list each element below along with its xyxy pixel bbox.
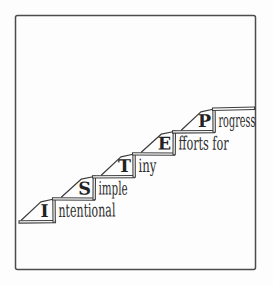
step-intentional: I ntentional <box>19 198 116 223</box>
step-word: fforts for <box>178 133 228 154</box>
step-letter: E <box>158 133 171 153</box>
step-word: ntentional <box>58 199 115 220</box>
step-wedge <box>21 199 54 220</box>
step-riser <box>173 131 175 155</box>
step-riser <box>93 176 95 200</box>
landing-line <box>212 107 254 111</box>
step-word: rogress <box>218 110 255 131</box>
staircase-diagram: I ntentional S imple T iny E fforts for <box>0 0 273 285</box>
step-riser <box>213 108 215 132</box>
step-letter: P <box>198 111 211 131</box>
ground-line <box>19 220 56 223</box>
step-progress: P rogress <box>172 108 255 133</box>
step-word: iny <box>138 155 156 176</box>
step-letter: I <box>40 201 48 221</box>
step-simple: S imple <box>52 176 127 201</box>
step-letter: S <box>78 178 91 198</box>
step-word: imple <box>98 178 127 199</box>
landing <box>212 107 254 111</box>
step-letter: T <box>118 156 131 176</box>
step-riser <box>133 153 135 177</box>
step-riser <box>53 198 56 222</box>
step-tiny: T iny <box>92 153 156 178</box>
step-efforts-for: E fforts for <box>132 131 228 156</box>
figure-canvas: I ntentional S imple T iny E fforts for <box>0 0 273 285</box>
